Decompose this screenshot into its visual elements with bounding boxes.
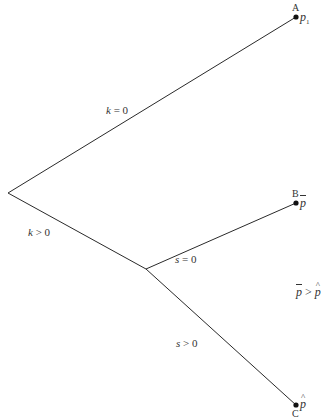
node-a-dot <box>293 14 298 19</box>
label-k-zero: k = 0 <box>106 105 128 116</box>
node-c-dot <box>293 402 298 407</box>
label-s-positive-var: s <box>176 337 180 349</box>
node-c-price-hat: p <box>300 398 306 410</box>
branch-k-zero <box>8 17 296 193</box>
node-b-price-bar: p <box>300 196 306 210</box>
price-comparison-note: p > p <box>296 287 321 298</box>
label-s-zero-val: 0 <box>191 253 197 265</box>
node-a-price-subscript: 1 <box>306 18 310 26</box>
note-lhs: p <box>296 285 302 299</box>
node-a-letter: A <box>292 3 299 13</box>
label-s-positive-val: 0 <box>192 337 198 349</box>
label-k-positive-op: > <box>36 226 42 238</box>
node-b-dot <box>293 200 298 205</box>
node-b-letter: B <box>292 189 299 199</box>
label-k-zero-op: = <box>114 104 120 116</box>
tree-diagram <box>0 0 332 419</box>
label-s-zero-var: s <box>175 253 179 265</box>
label-s-zero-op: = <box>182 253 188 265</box>
node-c-price: p <box>300 398 306 410</box>
branch-s-zero <box>146 203 296 269</box>
label-k-positive-var: k <box>28 226 33 238</box>
branch-s-positive <box>146 269 296 405</box>
label-s-positive: s > 0 <box>176 338 198 349</box>
note-rhs: p <box>315 287 321 298</box>
node-c-letter: C <box>292 409 299 419</box>
label-k-positive: k > 0 <box>28 227 50 238</box>
label-k-zero-val: 0 <box>123 104 129 116</box>
label-s-zero: s = 0 <box>175 254 197 265</box>
label-s-positive-op: > <box>183 337 189 349</box>
node-a-price: p1 <box>300 11 310 28</box>
label-k-zero-var: k <box>106 104 111 116</box>
node-b-price: p <box>300 197 306 209</box>
label-k-positive-val: 0 <box>45 226 51 238</box>
note-op: > <box>305 285 312 299</box>
